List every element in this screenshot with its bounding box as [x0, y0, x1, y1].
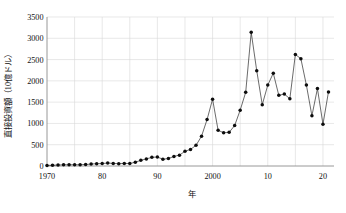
- data-point-marker: [272, 71, 276, 75]
- data-point-marker: [310, 114, 314, 118]
- series-line: [47, 32, 328, 165]
- data-point-marker: [128, 162, 132, 166]
- data-point-marker: [277, 94, 281, 98]
- y-tick-label: 2000: [27, 77, 43, 86]
- data-point-marker: [100, 162, 104, 166]
- x-tick-label: 20: [319, 172, 327, 181]
- data-point-marker: [283, 92, 287, 96]
- data-point-marker: [78, 163, 82, 167]
- x-tick-label: 2000: [204, 172, 220, 181]
- data-point-marker: [244, 91, 248, 95]
- data-point-marker: [194, 144, 198, 148]
- data-point-marker: [305, 83, 309, 87]
- y-tick-label: 0: [39, 162, 43, 171]
- y-tick-label: 1000: [27, 119, 43, 128]
- foreign-direct-investment-line-chart: 0500100015002000250030003500 19708090200…: [0, 0, 346, 213]
- data-point-marker: [89, 162, 93, 166]
- data-point-marker: [106, 161, 110, 165]
- y-tick-label: 500: [31, 141, 43, 150]
- x-axis-title: 年: [188, 189, 196, 199]
- data-point-marker: [111, 162, 115, 166]
- data-point-marker: [255, 69, 259, 73]
- x-tick-label: 90: [153, 172, 161, 181]
- data-point-marker: [211, 97, 215, 101]
- data-point-marker: [156, 155, 160, 159]
- data-series-group: [47, 32, 328, 165]
- data-point-marker: [227, 131, 231, 135]
- data-point-marker: [139, 159, 143, 163]
- data-point-marker: [189, 148, 193, 152]
- y-tick-label: 3000: [27, 34, 43, 43]
- y-tick-label: 3500: [27, 13, 43, 22]
- data-point-marker: [73, 163, 77, 167]
- data-point-marker: [45, 164, 49, 168]
- data-point-marker: [123, 162, 127, 166]
- x-tick-label: 80: [98, 172, 106, 181]
- data-point-marker: [316, 87, 320, 91]
- data-point-marker: [62, 163, 65, 167]
- y-tick-label: 1500: [27, 98, 43, 107]
- y-axis-tick-labels: 0500100015002000250030003500: [27, 13, 43, 171]
- data-point-marker: [84, 163, 88, 167]
- data-point-marker: [299, 57, 303, 61]
- data-point-marker: [161, 157, 165, 161]
- x-tick-label: 10: [264, 172, 272, 181]
- data-point-marker: [233, 124, 237, 128]
- data-point-marker: [266, 83, 270, 87]
- x-axis-tick-labels: 1970809020001020: [39, 172, 327, 181]
- data-point-marker: [178, 153, 182, 157]
- data-point-marker: [288, 97, 292, 101]
- chart-page: 0500100015002000250030003500 19708090200…: [0, 0, 346, 213]
- y-axis-title: 直接投資額（10億ドル）: [3, 50, 13, 138]
- data-point-marker: [56, 163, 60, 167]
- data-point-marker: [172, 155, 176, 159]
- data-point-marker: [200, 134, 204, 138]
- data-point-marker: [150, 156, 154, 160]
- data-point-marker: [183, 150, 187, 154]
- data-point-markers: [45, 31, 330, 168]
- data-point-marker: [145, 157, 149, 161]
- data-point-marker: [205, 118, 209, 122]
- data-point-marker: [67, 163, 71, 167]
- x-tick-label: 1970: [39, 172, 55, 181]
- data-point-marker: [95, 162, 99, 166]
- data-point-marker: [51, 163, 55, 167]
- data-point-marker: [216, 128, 220, 132]
- data-point-marker: [222, 131, 226, 135]
- data-point-marker: [261, 103, 265, 107]
- data-point-marker: [249, 31, 253, 35]
- data-point-marker: [134, 161, 138, 165]
- data-point-marker: [321, 123, 325, 127]
- y-tick-label: 2500: [27, 56, 43, 65]
- data-point-marker: [117, 162, 121, 166]
- data-point-marker: [294, 53, 298, 57]
- data-point-marker: [167, 157, 171, 161]
- data-point-marker: [327, 90, 331, 94]
- data-point-marker: [238, 108, 242, 112]
